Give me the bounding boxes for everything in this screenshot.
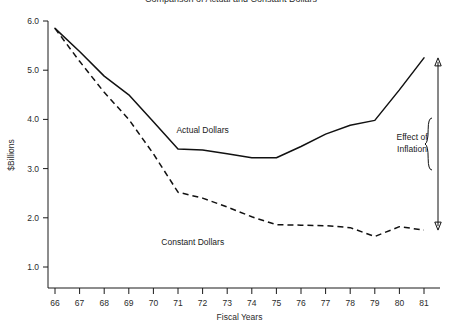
- annotation-text-line1: Effect of: [396, 132, 428, 142]
- x-axis-ticks: [55, 288, 424, 294]
- x-tick-label: 66: [50, 298, 60, 308]
- x-tick-label: 72: [198, 298, 208, 308]
- x-tick-label: 68: [99, 298, 109, 308]
- y-tick-label: 1.0: [27, 262, 39, 272]
- x-tick-label: 74: [247, 298, 257, 308]
- chart-container: Comparison of Actual and Constant Dollar…: [0, 0, 462, 325]
- y-axis-ticks: [43, 21, 48, 267]
- x-tick-label: 75: [272, 298, 282, 308]
- y-tick-label: 3.0: [27, 164, 39, 174]
- x-axis-title: Fiscal Years: [217, 312, 263, 322]
- x-tick-label: 71: [173, 298, 183, 308]
- annotation-text-line2: Inflation: [397, 144, 427, 154]
- y-tick-label: 4.0: [27, 114, 39, 124]
- x-tick-label: 78: [345, 298, 355, 308]
- y-tick-label: 5.0: [27, 65, 39, 75]
- series-label-actual-dollars: Actual Dollars: [176, 125, 228, 135]
- y-tick-label: 6.0: [27, 16, 39, 26]
- y-axis-title: $Billions: [6, 139, 16, 171]
- x-tick-label: 67: [75, 298, 85, 308]
- x-tick-label: 81: [419, 298, 429, 308]
- x-tick-label: 70: [149, 298, 159, 308]
- x-tick-label: 80: [395, 298, 405, 308]
- y-tick-label: 2.0: [27, 213, 39, 223]
- x-tick-label: 69: [124, 298, 134, 308]
- x-axis-tick-labels: 66676869707172737475767778798081: [50, 298, 429, 308]
- series-constant-dollars-line: [55, 28, 424, 236]
- y-axis-tick-labels: 1.02.03.04.05.06.0: [27, 16, 39, 272]
- x-tick-label: 76: [296, 298, 306, 308]
- series-label-constant-dollars: Constant Dollars: [161, 237, 224, 247]
- line-chart-plot: 1.02.03.04.05.06.0 666768697071727374757…: [0, 0, 462, 325]
- x-tick-label: 77: [321, 298, 331, 308]
- x-tick-label: 79: [370, 298, 380, 308]
- series-actual-dollars-line: [55, 28, 424, 157]
- x-tick-label: 73: [222, 298, 232, 308]
